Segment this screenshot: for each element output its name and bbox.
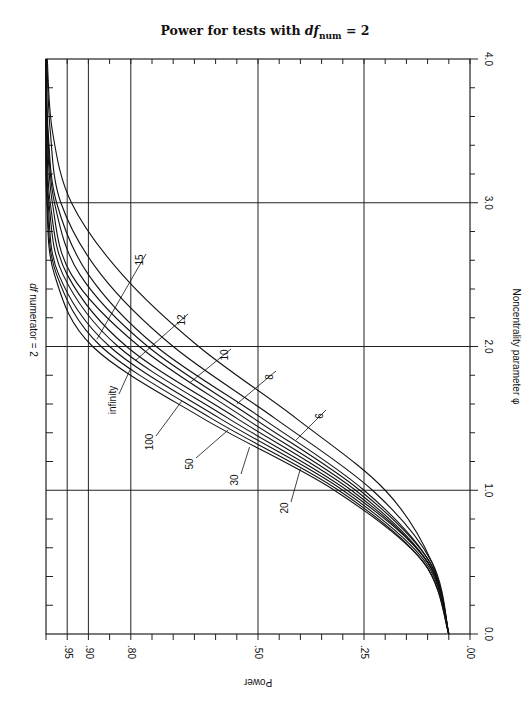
power-tick-label: .80 [126,645,137,659]
curve-label-6: 6 [314,413,325,419]
phi-tick-label: 4.0 [483,52,494,66]
curve-label-50: 50 [184,458,195,470]
phi-tick-label: 2.0 [483,340,494,354]
curve-label-12: 12 [176,314,187,326]
power-chart: .00.25.50.80.90.950.01.02.03.04.0PowerNo… [0,0,530,704]
curve-label-8: 8 [264,374,275,380]
power-tick-label: .95 [63,645,74,659]
curve-label-20: 20 [279,502,290,514]
curve-label-infinity: infinity [107,386,118,414]
curve-label-15: 15 [134,254,145,266]
leader-line [241,447,250,474]
power-tick-label: .25 [359,645,370,659]
leader-line [291,469,300,502]
curve-label-100: 100 [144,433,155,450]
phi-tick-label: 0.0 [483,627,494,641]
phi-tick-label: 3.0 [483,196,494,210]
power-tick-label: .50 [253,645,264,659]
power-axis-title: Power [243,677,272,688]
power-tick-label: .90 [84,645,95,659]
leader-line [196,430,228,458]
phi-tick-label: 1.0 [483,483,494,497]
leader-line [97,254,146,339]
leader-line [156,401,182,436]
power-tick-label: .00 [465,645,476,659]
curve-label-30: 30 [229,474,240,486]
df-numerator-label: df numerator = 2 [28,283,39,357]
phi-axis-title: Noncentrality parameter φ [511,289,522,405]
curve-label-10: 10 [219,349,230,361]
